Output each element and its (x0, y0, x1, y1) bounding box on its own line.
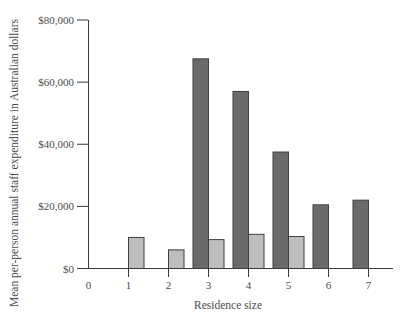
bar-light-size-5 (289, 237, 305, 269)
y-tick-label: $80,000 (38, 14, 74, 26)
x-tick-label: 4 (246, 279, 252, 291)
x-tick-label: 7 (366, 279, 372, 291)
bar-chart: Mean per-person annual staff expenditure… (0, 0, 404, 322)
y-tick-label: $60,000 (38, 76, 74, 88)
bar-dark-size-6 (313, 205, 329, 269)
x-tick-label: 2 (166, 279, 172, 291)
y-tick-label: $20,000 (38, 200, 74, 212)
y-axis-title: Mean per-person annual staff expenditure… (8, 19, 21, 307)
x-tick-label: 6 (326, 279, 332, 291)
bar-light-size-3 (209, 240, 225, 269)
y-axis-ticks: $0$20,000$40,000$60,000$80,000 (38, 14, 88, 275)
bar-dark-size-3 (193, 59, 209, 269)
y-tick-label: $40,000 (38, 138, 74, 150)
x-axis-title: Residence size (194, 299, 262, 311)
bar-dark-size-4 (233, 91, 249, 268)
x-tick-label: 5 (286, 279, 292, 291)
x-tick-label: 3 (206, 279, 212, 291)
bar-light-size-1 (129, 237, 145, 268)
bar-light-size-2 (169, 250, 185, 269)
bar-dark-size-5 (273, 152, 289, 268)
x-tick-label: 1 (126, 279, 132, 291)
x-axis-ticks: 01234567 (86, 269, 372, 292)
y-tick-label: $0 (63, 263, 75, 275)
bars (129, 59, 369, 269)
bar-dark-size-7 (353, 200, 369, 268)
x-tick-label: 0 (86, 279, 92, 291)
bar-light-size-4 (249, 234, 265, 268)
